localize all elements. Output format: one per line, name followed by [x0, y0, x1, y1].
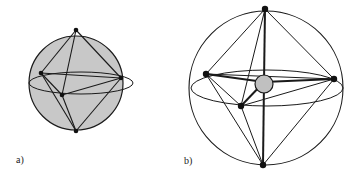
figure-b	[189, 6, 343, 168]
diagram-canvas	[0, 0, 355, 174]
sphere-a	[29, 36, 123, 130]
center-atom	[255, 75, 273, 93]
figure-a-label: a)	[16, 154, 24, 165]
figure-a	[29, 28, 133, 134]
figure-b-label: b)	[184, 155, 192, 166]
